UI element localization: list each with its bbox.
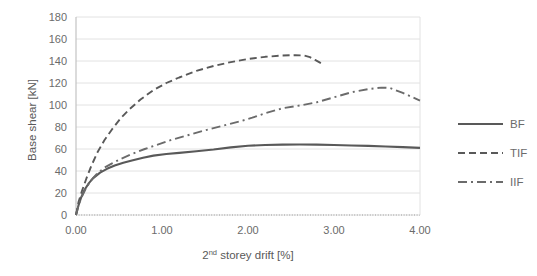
y-tick-label-20: 20 xyxy=(55,187,67,199)
legend-label-bf[interactable]: BF xyxy=(510,118,525,130)
y-tick-label-160: 160 xyxy=(49,33,67,45)
x-tick-label-3.00: 3.00 xyxy=(323,224,344,236)
x-axis-title-rest: storey drift [%] xyxy=(217,249,294,261)
data-series-group xyxy=(76,55,420,215)
series-line-iif xyxy=(76,88,420,215)
x-tick-label-2.00: 2.00 xyxy=(237,224,258,236)
x-tick-label-1.00: 1.00 xyxy=(151,224,172,236)
y-tick-label-140: 140 xyxy=(49,55,67,67)
y-axis-title: Base shear [kN] xyxy=(26,79,38,161)
y-tick-label-180: 180 xyxy=(49,11,67,23)
y-tick-label-80: 80 xyxy=(55,121,67,133)
y-tick-label-0: 0 xyxy=(61,209,67,221)
chart-canvas: 020406080100120140160180 0.001.002.003.0… xyxy=(0,0,537,276)
x-tick-label-0.00: 0.00 xyxy=(65,224,86,236)
x-axis-title: 2nd storey drift [%] xyxy=(202,248,293,261)
legend-label-tif[interactable]: TIF xyxy=(510,147,527,159)
y-tick-label-60: 60 xyxy=(55,143,67,155)
x-axis-title-superscript: nd xyxy=(209,248,217,257)
y-tick-label-40: 40 xyxy=(55,165,67,177)
x-axis-tick-labels: 0.001.002.003.004.00 xyxy=(65,224,430,236)
y-axis-tick-labels: 020406080100120140160180 xyxy=(49,11,67,221)
x-tick-label-4.00: 4.00 xyxy=(409,224,430,236)
pushover-curve-chart: 020406080100120140160180 0.001.002.003.0… xyxy=(0,0,537,276)
y-tick-label-120: 120 xyxy=(49,77,67,89)
axis-lines xyxy=(76,17,420,215)
series-line-tif xyxy=(76,55,321,215)
y-tick-label-100: 100 xyxy=(49,99,67,111)
chart-legend: BFTIFIIF xyxy=(458,118,527,188)
legend-label-iif[interactable]: IIF xyxy=(510,176,523,188)
gridlines xyxy=(76,17,420,215)
